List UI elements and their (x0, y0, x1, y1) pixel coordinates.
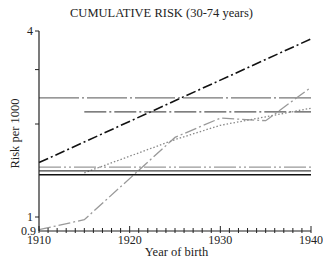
series-line-0 (39, 39, 311, 163)
x-tick-label: 1940 (299, 233, 323, 247)
x-tick-label: 1920 (118, 233, 142, 247)
series-line-4 (84, 108, 311, 173)
series-layer (39, 39, 311, 230)
line-chart: 410.91910192019301940 (0, 0, 323, 264)
series-line-3 (39, 87, 311, 229)
y-tick-label: 4 (27, 24, 33, 38)
x-tick-label: 1910 (27, 233, 51, 247)
y-tick-label: 1 (27, 210, 33, 224)
x-tick-label: 1930 (208, 233, 232, 247)
axes: 410.91910192019301940 (21, 24, 323, 247)
